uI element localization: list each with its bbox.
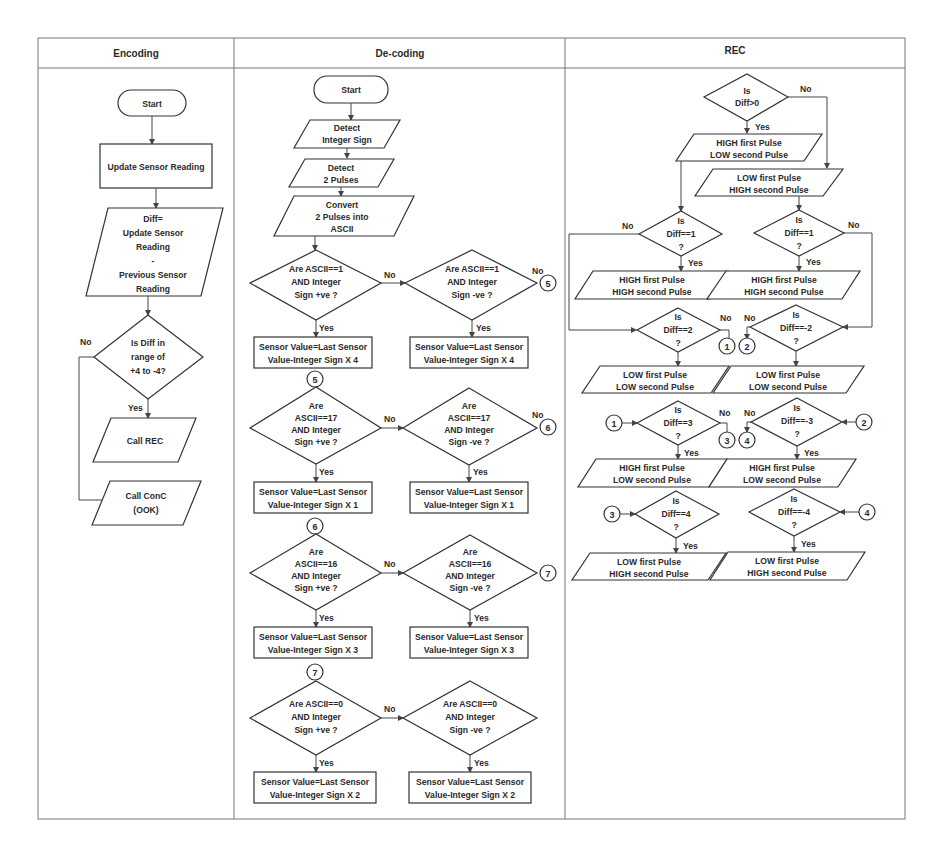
svg-text:Sign -ve ?: Sign -ve ? [449,583,490,593]
svg-text:Sign +ve ?: Sign +ve ? [294,437,337,447]
svg-text:AND Integer: AND Integer [445,571,495,581]
svg-text:No: No [532,266,543,276]
svg-text:AND Integer: AND Integer [291,425,341,435]
svg-text:4: 4 [864,508,869,518]
svg-text:HIGH first Pulse: HIGH first Pulse [716,138,782,148]
svg-text:Sensor Value=Last Sensor: Sensor Value=Last Sensor [259,487,368,497]
svg-text:Are ASCII==0: Are ASCII==0 [289,699,343,709]
svg-text:Yes: Yes [684,448,699,458]
decoding-flow: Start Detect Integer Sign Detect 2 Pulse… [250,76,556,803]
svg-text:LOW second Pulse: LOW second Pulse [710,150,788,160]
svg-text:Yes: Yes [319,613,334,623]
svg-text:Value-Integer Sign X 3: Value-Integer Sign X 3 [424,645,514,655]
column-header-encoding: Encoding [113,48,159,59]
svg-text:Are ASCII==0: Are ASCII==0 [443,699,497,709]
svg-text:LOW first Pulse: LOW first Pulse [623,370,687,380]
svg-text:AND Integer: AND Integer [291,571,341,581]
svg-text:AND Integer: AND Integer [447,277,497,287]
svg-text:HIGH second Pulse: HIGH second Pulse [747,568,826,578]
svg-text:Is: Is [672,496,679,506]
svg-text:Value-Integer Sign X 4: Value-Integer Sign X 4 [268,355,358,365]
svg-text:3: 3 [609,510,614,520]
decode-row-1: Are ASCII==1 AND Integer Sign +ve ? No A… [250,250,556,368]
svg-text:Reading: Reading [136,242,170,252]
svg-text:Value-Integer Sign X 2: Value-Integer Sign X 2 [425,790,515,800]
svg-text:No: No [719,408,730,418]
svg-text:1: 1 [724,342,729,352]
svg-text:Sign -ve ?: Sign -ve ? [451,290,492,300]
svg-text:Sensor Value=Last Sensor: Sensor Value=Last Sensor [261,777,370,787]
call-conc-io [92,481,201,525]
svg-text:Yes: Yes [474,758,489,768]
svg-text:Diff=: Diff= [143,214,162,224]
svg-text:LOW first Pulse: LOW first Pulse [737,173,801,183]
svg-text:AND Integer: AND Integer [291,277,341,287]
svg-text:LOW second Pulse: LOW second Pulse [613,475,691,485]
svg-text:Value-Integer Sign X 4: Value-Integer Sign X 4 [424,355,514,365]
svg-text:Are ASCII==1: Are ASCII==1 [445,264,499,274]
svg-text:Sensor Value=Last Sensor: Sensor Value=Last Sensor [259,342,368,352]
svg-text:Yes: Yes [319,323,334,333]
svg-text:ASCII==17: ASCII==17 [295,413,338,423]
svg-text:?: ? [794,429,799,439]
svg-text:Diff==3: Diff==3 [663,418,692,428]
svg-text:Previous Sensor: Previous Sensor [119,270,187,280]
svg-text:Are ASCII==1: Are ASCII==1 [289,264,343,274]
flowchart-diagram: Encoding De-coding REC Start Update Sens… [0,0,941,858]
svg-text:No: No [80,337,91,347]
rec-flow: Is Diff>0 No Yes HIGH first Pulse LOW se… [569,74,875,580]
svg-text:No: No [384,414,395,424]
svg-text:ASCII==16: ASCII==16 [449,559,492,569]
svg-text:Yes: Yes [474,613,489,623]
svg-text:Sign -ve ?: Sign -ve ? [449,725,490,735]
svg-text:Sensor Value=Last Sensor: Sensor Value=Last Sensor [415,632,524,642]
svg-text:No: No [848,220,859,230]
svg-text:LOW second Pulse: LOW second Pulse [743,475,821,485]
svg-text:Sensor Value=Last Sensor: Sensor Value=Last Sensor [415,342,524,352]
svg-text:2: 2 [861,418,866,428]
svg-text:Value-Integer Sign X 1: Value-Integer Sign X 1 [424,500,514,510]
decode-row-4: 7 Are ASCII==0 AND Integer Sign +ve ? No… [250,664,537,803]
svg-text:4: 4 [744,436,749,446]
svg-text:Sign +ve ?: Sign +ve ? [294,290,337,300]
svg-text:LOW second Pulse: LOW second Pulse [616,382,694,392]
svg-text:Reading: Reading [136,284,170,294]
svg-text:Yes: Yes [755,122,770,132]
svg-text:HIGH first Pulse: HIGH first Pulse [749,463,815,473]
svg-text:Is: Is [793,403,800,413]
svg-text:Is: Is [674,312,681,322]
svg-text:No: No [622,221,633,231]
svg-text:Are: Are [463,547,478,557]
svg-text:2 Pulses into: 2 Pulses into [315,212,368,222]
svg-text:2: 2 [744,342,749,352]
svg-text:?: ? [793,336,798,346]
svg-text:HIGH second Pulse: HIGH second Pulse [744,287,823,297]
svg-text:1: 1 [611,419,616,429]
svg-text:LOW first Pulse: LOW first Pulse [617,557,681,567]
decode-row-3: 6 Are ASCII==16 AND Integer Sign +ve ? N… [250,518,556,658]
svg-text:Update Sensor: Update Sensor [123,228,184,238]
svg-text:3: 3 [724,436,729,446]
column-header-rec: REC [724,45,745,56]
svg-text:HIGH second Pulse: HIGH second Pulse [612,287,691,297]
svg-text:7: 7 [545,569,550,579]
svg-text:ASCII==16: ASCII==16 [295,559,338,569]
svg-text:LOW second Pulse: LOW second Pulse [749,382,827,392]
svg-text:Yes: Yes [319,467,334,477]
svg-text:?: ? [675,431,680,441]
svg-text:Is: Is [795,215,802,225]
svg-text:Start: Start [142,99,162,109]
svg-text:No: No [384,559,395,569]
svg-text:ASCII: ASCII [331,224,354,234]
svg-text:2 Pulses: 2 Pulses [324,175,359,185]
svg-text:AND Integer: AND Integer [444,425,494,435]
svg-text:ASCII==17: ASCII==17 [448,413,491,423]
svg-text:Integer Sign: Integer Sign [322,135,372,145]
svg-text:range of: range of [131,352,165,362]
svg-text:LOW first Pulse: LOW first Pulse [756,370,820,380]
svg-text:Is: Is [674,405,681,415]
svg-text:Update Sensor Reading: Update Sensor Reading [108,162,205,172]
svg-text:Sensor Value=Last Sensor: Sensor Value=Last Sensor [415,487,524,497]
svg-text:Sensor Value=Last Sensor: Sensor Value=Last Sensor [416,777,525,787]
svg-text:Are: Are [309,547,324,557]
